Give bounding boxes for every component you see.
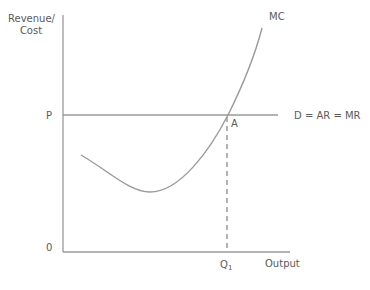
profit-maximisation-diagram: [0, 0, 370, 290]
q-subscript: 1: [228, 264, 232, 272]
x-axis-label: Output: [265, 258, 300, 270]
mc-curve: [81, 28, 262, 192]
mc-label: MC: [269, 11, 285, 23]
y-axis-label: Revenue/ Cost: [8, 13, 54, 36]
q1-label: Q1: [220, 259, 232, 272]
q-letter: Q: [220, 259, 228, 270]
point-a-label: A: [231, 118, 238, 130]
y-axis-label-line1: Revenue/: [8, 13, 54, 25]
origin-label: 0: [46, 242, 52, 254]
y-axis-label-line2: Cost: [8, 25, 54, 37]
price-label: P: [46, 110, 52, 122]
demand-label: D = AR = MR: [294, 110, 361, 122]
